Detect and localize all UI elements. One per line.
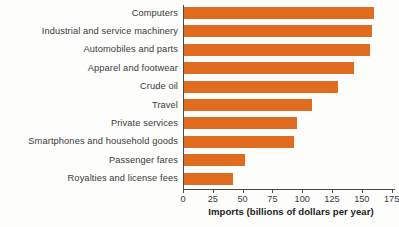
x-axis-tick-label: 25	[208, 194, 218, 205]
category-label: Smartphones and household goods	[0, 136, 178, 147]
bar-row: Apparel and footwear	[0, 59, 399, 77]
bar	[184, 99, 312, 111]
x-axis-tick	[362, 189, 363, 193]
x-axis-tick	[213, 189, 214, 193]
x-axis-tick	[243, 189, 244, 193]
bar	[184, 7, 374, 19]
x-axis-line	[183, 189, 395, 190]
bar-row: Smartphones and household goods	[0, 133, 399, 151]
x-axis-tick-label: 175	[384, 194, 399, 205]
bar	[184, 173, 233, 185]
bar-row: Royalties and license fees	[0, 170, 399, 188]
bar	[184, 81, 338, 93]
x-axis-tick	[183, 189, 184, 193]
bar	[184, 25, 372, 37]
category-label: Computers	[0, 8, 178, 19]
category-label: Industrial and service machinery	[0, 26, 178, 37]
category-label: Apparel and footwear	[0, 63, 178, 74]
x-axis-tick-label: 100	[295, 194, 310, 205]
bar-row: Travel	[0, 96, 399, 114]
x-axis-tick-label: 150	[354, 194, 369, 205]
x-axis-tick-label: 50	[237, 194, 247, 205]
bar	[184, 62, 354, 74]
bar-row: Private services	[0, 114, 399, 132]
x-axis-title: Imports (billions of dollars per year)	[183, 206, 399, 217]
bar-row: Passenger fares	[0, 151, 399, 169]
category-label: Crude oil	[0, 81, 178, 92]
bar	[184, 136, 294, 148]
bar-row: Computers	[0, 4, 399, 22]
x-axis-tick	[302, 189, 303, 193]
category-label: Royalties and license fees	[0, 173, 178, 184]
x-axis-tick	[392, 189, 393, 193]
x-axis-tick-label: 75	[267, 194, 277, 205]
bar-row: Crude oil	[0, 78, 399, 96]
bar	[184, 44, 370, 56]
x-axis-tick	[332, 189, 333, 193]
x-axis-tick	[272, 189, 273, 193]
category-label: Passenger fares	[0, 155, 178, 166]
imports-bar-chart: ComputersIndustrial and service machiner…	[0, 0, 399, 227]
bar-row: Automobiles and parts	[0, 41, 399, 59]
x-axis-tick-label: 125	[324, 194, 339, 205]
bar-row: Industrial and service machinery	[0, 22, 399, 40]
x-axis-tick-label: 0	[180, 194, 185, 205]
category-label: Travel	[0, 100, 178, 111]
category-label: Private services	[0, 118, 178, 129]
bar	[184, 154, 245, 166]
bar	[184, 117, 297, 129]
category-label: Automobiles and parts	[0, 44, 178, 55]
